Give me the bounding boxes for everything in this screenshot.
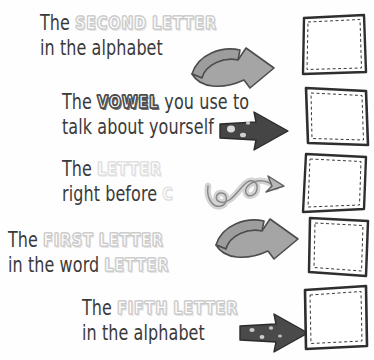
emphasis-word-letter: LETTER xyxy=(99,229,164,252)
clue-row-5-line-1: The FIFTH LETTER xyxy=(82,295,238,321)
clue-text: The xyxy=(82,295,117,319)
clue-row-3: The LETTER right before C xyxy=(62,156,181,202)
clue-row-4-line-1: The FIRST LETTER xyxy=(8,227,169,253)
clue-text: The xyxy=(62,156,97,180)
emphasis-word-letter: LETTER xyxy=(104,254,169,277)
emphasis-word-second: SECOND xyxy=(75,12,147,35)
answer-box-4[interactable] xyxy=(306,214,372,282)
bold-block-arrow-right-icon xyxy=(218,110,290,152)
clue-row-5-line-2: in the alphabet xyxy=(82,320,238,344)
emphasis-word-letter: LETTER xyxy=(152,12,217,35)
clue-row-5: The FIFTH LETTER in the alphabet xyxy=(82,295,248,340)
answer-box-2[interactable] xyxy=(302,83,372,151)
clue-row-3-line-1: The LETTER xyxy=(62,156,174,182)
answer-box-1[interactable] xyxy=(299,12,369,78)
clue-row-4-line-2: in the word LETTER xyxy=(8,252,169,278)
clue-row-4: The FIRST LETTER in the word LETTER xyxy=(8,227,180,273)
answer-box-3[interactable] xyxy=(300,151,370,217)
clue-text: The xyxy=(40,10,75,34)
clue-text: right before xyxy=(62,181,162,205)
emphasis-word-first: FIRST xyxy=(43,229,94,252)
clue-text: in the word xyxy=(8,252,104,276)
worksheet-canvas: The SECOND LETTER in the alphabet The VO… xyxy=(0,0,374,360)
clue-text: The xyxy=(8,227,43,251)
emphasis-word-letter: LETTER xyxy=(173,297,238,320)
emphasis-word-fifth: FIFTH xyxy=(117,297,168,320)
clue-row-3-line-2: right before C xyxy=(62,181,174,207)
curved-ribbon-arrow-right-icon xyxy=(212,215,304,263)
emphasis-letter-c: C xyxy=(162,183,173,206)
answer-box-5[interactable] xyxy=(301,284,371,354)
bold-block-arrow-right-icon xyxy=(238,312,310,354)
clue-text: The xyxy=(62,89,97,113)
emphasis-word-vowel: VOWEL xyxy=(97,91,159,114)
clue-row-1-line-1: The SECOND LETTER xyxy=(40,10,217,36)
curly-loop-arrow-right-icon xyxy=(202,166,288,214)
emphasis-word-letter: LETTER xyxy=(97,158,162,181)
curved-ribbon-arrow-right-icon xyxy=(188,44,280,92)
